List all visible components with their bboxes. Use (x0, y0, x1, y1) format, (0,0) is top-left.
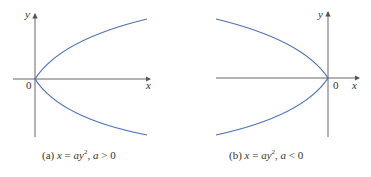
parabola-curve-a (35, 19, 147, 135)
y-axis-label-b: y (317, 8, 323, 20)
caption-a: (a) x = ay2, a > 0 (42, 148, 116, 161)
equation-lhs-b: x (245, 149, 250, 161)
equation-rhs-b: ay (261, 149, 271, 161)
y-axis-label-a: y (24, 8, 30, 20)
equation-rhs-a: ay (74, 149, 84, 161)
origin-label-b: 0 (333, 79, 339, 91)
x-axis-label-a: x (145, 79, 151, 91)
caption-tag-a: (a) (42, 149, 54, 161)
caption-tag-b: (b) (229, 149, 242, 161)
x-axis-label-b: x (351, 79, 357, 91)
condition-b: < 0 (289, 149, 303, 161)
graph-a: y 0 x (13, 8, 151, 137)
exponent-b: 2 (272, 148, 276, 156)
equation-lhs-a: x (57, 149, 62, 161)
origin-label-a: 0 (26, 79, 32, 91)
condition-var-a: a (93, 149, 99, 161)
condition-var-b: a (281, 149, 287, 161)
caption-b: (b) x = ay2, a < 0 (229, 148, 303, 161)
exponent-a: 2 (84, 148, 88, 156)
parabola-curve-b (216, 19, 328, 135)
condition-a: > 0 (101, 149, 115, 161)
graph-b: y 0 x (216, 8, 359, 137)
